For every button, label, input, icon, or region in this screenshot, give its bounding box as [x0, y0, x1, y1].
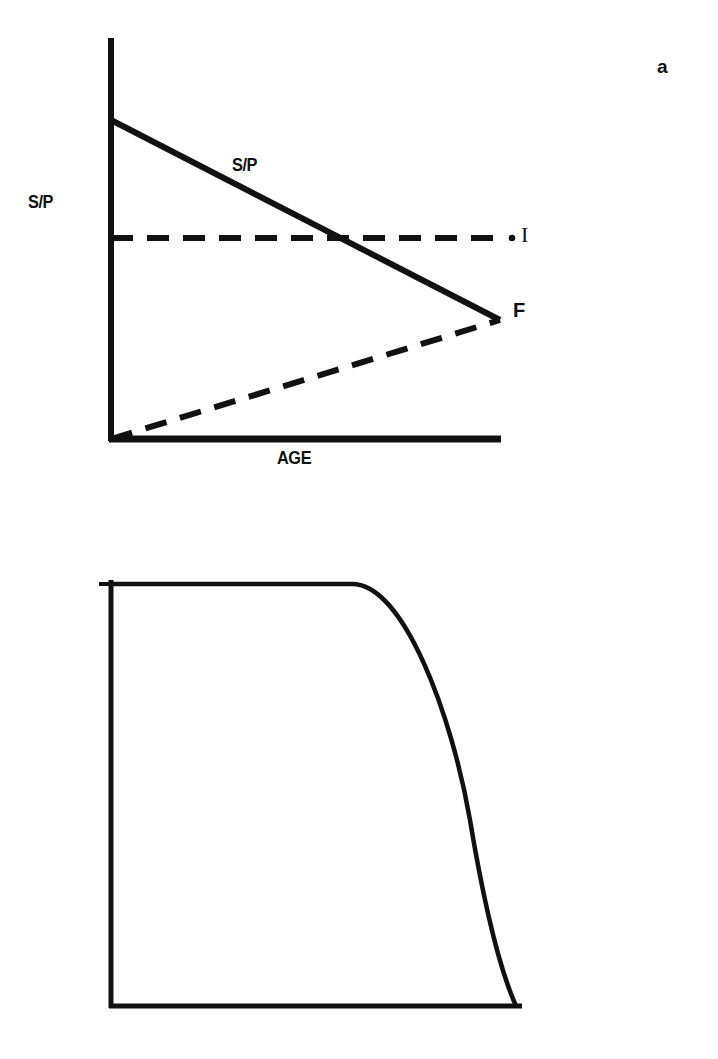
panel-b-series-sif	[111, 584, 516, 1006]
panel-b: 1.0 0.0 SIF AGE b	[0, 520, 718, 1059]
panel-b-plot	[0, 520, 718, 1059]
panel-a-x-axis-title: AGE	[277, 448, 311, 467]
panel-a-plot	[0, 0, 718, 520]
panel-a-series-label-i: I	[521, 224, 528, 246]
panel-a-series-label-sp: S/P	[232, 155, 257, 174]
panel-a-series-f	[111, 320, 500, 439]
panel-a-series-label-f: F	[513, 300, 525, 320]
panel-a-series-sp	[111, 120, 500, 320]
panel-a-letter: a	[657, 57, 667, 76]
figure-root: S/P S/P I F AGE a 1.0 0.0 SIF AGE b	[0, 0, 718, 1059]
panel-a-series-i-endpoint-dot	[509, 235, 516, 242]
panel-a-y-axis-title: S/P	[28, 192, 53, 211]
panel-a: S/P S/P I F AGE a	[0, 0, 718, 520]
